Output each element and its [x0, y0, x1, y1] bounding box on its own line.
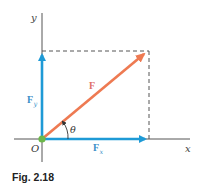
svg-text:x: x	[100, 148, 104, 156]
figure-caption: Fig. 2.18	[12, 171, 54, 183]
y-axis-label: y	[30, 12, 37, 23]
diagram-canvas: y x O θ F F y F x	[0, 0, 202, 191]
angle-label: θ	[70, 124, 76, 135]
vector-components-figure: y x O θ F F y F x Fig. 2.18	[0, 0, 202, 191]
x-axis-label: x	[185, 143, 191, 154]
force-y-label: F y	[27, 94, 38, 108]
svg-text:F: F	[93, 142, 99, 153]
angle-arc	[63, 122, 68, 139]
svg-text:y: y	[33, 100, 38, 108]
force-label: F	[89, 80, 95, 91]
origin-label: O	[31, 143, 39, 154]
svg-text:F: F	[27, 94, 33, 105]
force-resultant-arrow	[42, 54, 144, 139]
origin-dot	[38, 135, 45, 142]
force-x-label: F x	[93, 142, 104, 156]
